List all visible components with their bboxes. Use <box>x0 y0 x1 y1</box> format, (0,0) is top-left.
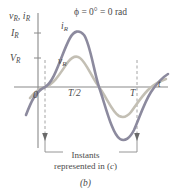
y-tick-label-current-amplitude: IR <box>11 28 19 40</box>
caption-represented-in: represented in (c) <box>0 161 171 171</box>
figure-container: vR, iR ϕ = 0° = 0 rad IR VR iR vR 0 T/2 … <box>0 0 171 196</box>
bracket-right-arrowhead <box>134 133 140 141</box>
curve-label-current: iR <box>61 22 68 32</box>
curve-label-voltage: vR <box>58 57 66 67</box>
figure-letter: (b) <box>0 178 171 188</box>
x-axis-label: t <box>158 80 161 90</box>
phase-annotation: ϕ = 0° = 0 rad <box>74 8 127 18</box>
x-tick-label-origin: 0 <box>33 90 38 100</box>
caption-instants: Instants <box>0 150 171 160</box>
y-axis-label: vR, iR <box>9 11 30 23</box>
x-tick-label-period: T <box>130 89 135 99</box>
x-tick-label-half-period: T/2 <box>68 89 81 99</box>
bracket-left-arrowhead <box>42 133 48 141</box>
y-tick-label-voltage-amplitude: VR <box>10 53 21 65</box>
